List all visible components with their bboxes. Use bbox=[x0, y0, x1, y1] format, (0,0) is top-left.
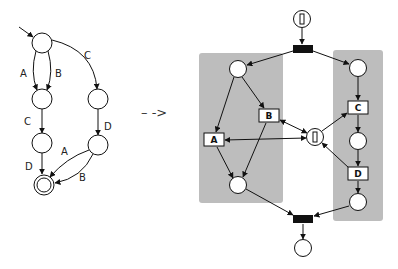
edge-label: B bbox=[79, 172, 86, 183]
place-end bbox=[295, 240, 312, 257]
edge-label: B bbox=[55, 68, 62, 79]
transition-label: C bbox=[355, 103, 362, 113]
transition-label: B bbox=[266, 111, 273, 121]
place bbox=[350, 194, 367, 211]
place bbox=[230, 61, 247, 78]
state bbox=[88, 89, 108, 109]
edge-label: A bbox=[20, 68, 27, 79]
state bbox=[32, 89, 52, 109]
join-transition bbox=[293, 215, 313, 223]
place-start bbox=[294, 11, 311, 28]
place-mutex bbox=[307, 129, 324, 146]
state bbox=[88, 135, 108, 155]
arc bbox=[280, 120, 307, 133]
edge-B-2 bbox=[55, 154, 93, 183]
edge-label: C bbox=[84, 50, 91, 61]
edge-label: C bbox=[24, 116, 31, 127]
transition-label: A bbox=[211, 135, 218, 145]
transform-arrow: – -> bbox=[141, 105, 167, 120]
edge-label: D bbox=[25, 161, 33, 172]
state bbox=[32, 133, 52, 153]
state-initial bbox=[32, 33, 52, 53]
transition-label: D bbox=[354, 169, 361, 179]
edge-label: A bbox=[61, 146, 68, 157]
edge-B bbox=[47, 51, 51, 90]
place bbox=[230, 177, 247, 194]
place bbox=[350, 60, 367, 77]
edge-A bbox=[33, 51, 37, 90]
edge-label: D bbox=[104, 121, 112, 132]
diagram-canvas: A B C C D D A B – -> bbox=[0, 0, 398, 269]
initial-arrow bbox=[19, 27, 33, 37]
fork-transition bbox=[293, 45, 313, 53]
place bbox=[350, 133, 367, 150]
petri-net: A B C D bbox=[199, 11, 383, 257]
edge-C bbox=[52, 40, 97, 89]
